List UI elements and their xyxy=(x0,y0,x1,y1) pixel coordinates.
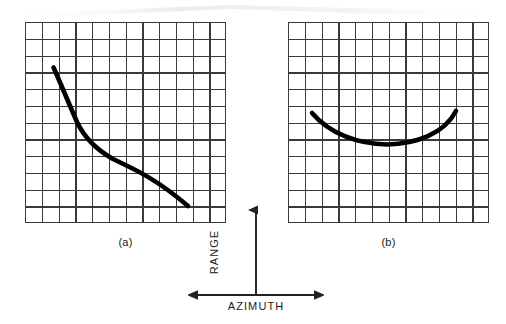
figure-root: (a) xyxy=(0,0,506,324)
panel-b xyxy=(288,22,489,223)
axes-widget xyxy=(188,200,324,320)
range-decay-curve xyxy=(25,22,226,223)
panel-a xyxy=(25,22,226,223)
range-parabola-curve xyxy=(288,22,489,223)
